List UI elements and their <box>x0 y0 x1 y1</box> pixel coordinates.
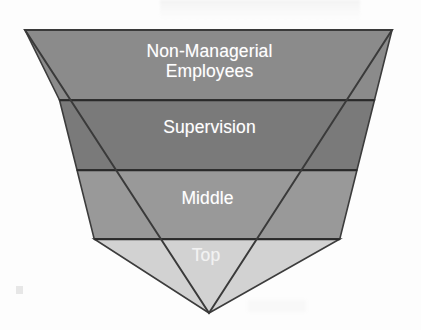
pyramid-shape-svg <box>0 0 421 330</box>
pyramid-band-middle[interactable] <box>77 170 357 239</box>
pyramid-band-supervision[interactable] <box>60 100 375 170</box>
pyramid-band-non-managerial-employees[interactable] <box>25 30 392 100</box>
diagram-canvas: Non-Managerial Employees Supervision Mid… <box>0 0 421 330</box>
inverted-pyramid-diagram: Non-Managerial Employees Supervision Mid… <box>0 0 421 330</box>
